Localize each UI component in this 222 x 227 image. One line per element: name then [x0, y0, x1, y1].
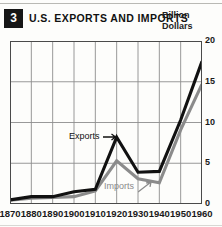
- imports-annotation-label: Imports: [104, 181, 134, 191]
- axis-unit-label: Billion Dollars: [162, 10, 218, 32]
- chart-svg: [10, 41, 202, 204]
- y-tick-label: 10: [205, 117, 215, 127]
- imports-annotation: Imports: [104, 181, 154, 193]
- x-tick-label: 1910: [85, 208, 106, 219]
- gridlines: [10, 41, 202, 204]
- chart-figure: 3 U.S. EXPORTS AND IMPORTS Billion Dolla…: [0, 0, 222, 227]
- exports-annotation-label: Exports: [69, 131, 100, 141]
- chart-header: 3 U.S. EXPORTS AND IMPORTS Billion Dolla…: [0, 8, 222, 34]
- y-tick-label: 5: [205, 157, 210, 167]
- x-tick-label: 1900: [63, 208, 84, 219]
- unit-line-2: Dollars: [162, 21, 218, 32]
- x-tick-label: 1950: [170, 208, 191, 219]
- x-tick-label: 1870: [0, 208, 21, 219]
- plot-area: [10, 41, 202, 204]
- x-tick-label: 1920: [106, 208, 127, 219]
- x-tick-label: 1890: [42, 208, 63, 219]
- x-tick-label: 1930: [127, 208, 148, 219]
- y-tick-label: 0: [205, 198, 210, 208]
- figure-number-badge: 3: [4, 9, 23, 28]
- x-tick-label: 1940: [149, 208, 170, 219]
- x-tick-label: 1960: [191, 208, 212, 219]
- top-divider: [0, 3, 222, 4]
- x-tick-label: 1880: [21, 208, 42, 219]
- exports-arrow-icon: [103, 133, 119, 141]
- unit-line-1: Billion: [162, 10, 218, 21]
- exports-annotation: Exports: [69, 131, 119, 141]
- y-tick-label: 15: [205, 76, 215, 86]
- y-tick-label: 20: [205, 35, 215, 45]
- bottom-divider: [0, 225, 222, 226]
- imports-arrow-icon: [138, 181, 154, 193]
